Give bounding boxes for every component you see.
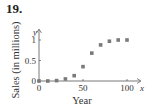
data-points — [37, 38, 129, 83]
data-point-square-icon — [46, 79, 50, 83]
ticks: 05010000.51 — [25, 35, 135, 93]
x-axis-symbol: x — [139, 83, 144, 93]
x-tick-label: 50 — [79, 83, 89, 93]
data-point-square-icon — [37, 79, 41, 83]
y-axis-label: Sales (in millions) — [10, 21, 22, 99]
data-point-square-icon — [72, 74, 76, 78]
y-tick-label: 0 — [32, 76, 37, 86]
data-point-square-icon — [64, 77, 68, 81]
y-axis-symbol: y — [32, 27, 37, 37]
x-axis-label: Year — [72, 95, 92, 106]
data-point-square-icon — [90, 51, 94, 55]
x-tick-label: 0 — [37, 83, 42, 93]
data-point-square-icon — [81, 65, 85, 69]
data-point-square-icon — [99, 43, 103, 47]
scatter-chart: Sales (in millions) 05010000.51 y x Year — [0, 0, 152, 112]
data-point-square-icon — [108, 39, 112, 43]
data-point-square-icon — [125, 38, 129, 42]
y-tick-label: 0.5 — [25, 56, 37, 66]
x-tick-label: 100 — [120, 83, 134, 93]
data-point-square-icon — [116, 38, 120, 42]
axes — [37, 29, 142, 84]
data-point-square-icon — [55, 79, 59, 83]
